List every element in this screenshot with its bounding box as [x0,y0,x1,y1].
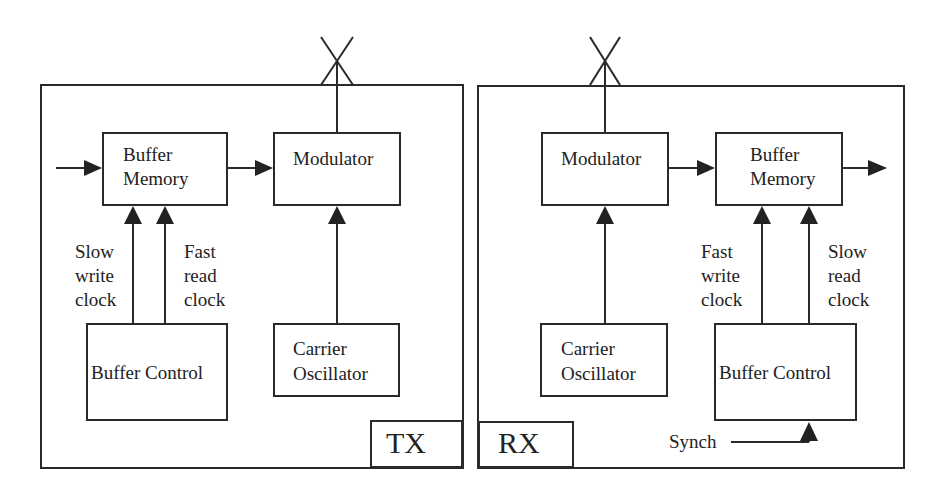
synch-label: Synch [669,430,717,454]
tx-buffer-control-label: Buffer Control [91,361,203,385]
rx-carrier-oscillator-block: Carrier Oscillator [540,323,668,397]
rx-modulator-label: Modulator [561,147,641,171]
tx-label-box: TX [370,420,463,468]
tx-label: TX [386,426,426,460]
tx-buffer-memory-line1: Buffer [123,143,172,167]
rx-modulator-block: Modulator [541,132,669,206]
tx-modulator-label: Modulator [293,147,373,171]
rx-buffer-control-block: Buffer Control [714,323,857,421]
rx-buffer-memory-line2: Memory [750,167,815,191]
rx-label-box: RX [478,421,574,468]
rx-carrier-oscillator-line2: Oscillator [561,362,636,386]
rx-buffer-memory-block: Buffer Memory [715,132,843,206]
tx-buffer-memory-block: Buffer Memory [102,132,228,206]
rx-buffer-memory-line1: Buffer [750,143,799,167]
tx-carrier-oscillator-line2: Oscillator [293,362,368,386]
tx-buffer-control-block: Buffer Control [86,323,228,421]
tx-carrier-oscillator-block: Carrier Oscillator [273,323,400,397]
tx-buffer-memory-line2: Memory [123,167,188,191]
tx-carrier-oscillator-line1: Carrier [293,337,347,361]
rx-buffer-control-label: Buffer Control [719,361,831,385]
rx-carrier-oscillator-line1: Carrier [561,337,615,361]
tx-modulator-block: Modulator [273,132,401,206]
rx-label: RX [498,426,540,460]
